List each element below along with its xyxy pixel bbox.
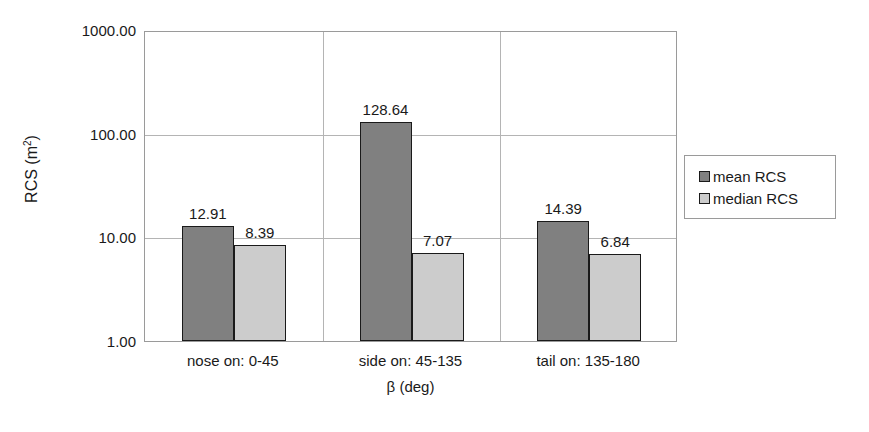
bar-mean-0 bbox=[182, 226, 234, 341]
gridline-vertical bbox=[500, 32, 501, 341]
x-axis-tick-label: tail on: 135-180 bbox=[499, 352, 677, 370]
legend-item[interactable]: median RCS bbox=[699, 187, 827, 209]
bar-value-label: 6.84 bbox=[581, 234, 649, 249]
bar-value-label: 14.39 bbox=[529, 201, 597, 216]
bar-value-label: 8.39 bbox=[226, 225, 294, 240]
plot-area: 12.918.39128.647.0714.396.84 bbox=[144, 31, 677, 342]
x-axis-tick-label: side on: 45-135 bbox=[322, 352, 500, 370]
bar-median-0 bbox=[234, 245, 286, 341]
bar-median-2 bbox=[589, 254, 641, 341]
bar-value-label: 7.07 bbox=[404, 233, 472, 248]
y-axis-title-close: ) bbox=[23, 135, 40, 140]
x-axis-title: β (deg) bbox=[144, 378, 677, 396]
rcs-bar-chart: RCS (m2) 1000.00100.0010.001.00 12.918.3… bbox=[0, 0, 869, 432]
chart-legend: mean RCSmedian RCS bbox=[684, 155, 836, 219]
y-axis-title-exponent: 2 bbox=[22, 140, 33, 146]
y-axis-tick-label: 1.00 bbox=[44, 334, 136, 349]
legend-item-label: median RCS bbox=[713, 191, 798, 206]
bar-median-1 bbox=[412, 253, 464, 341]
legend-swatch-icon bbox=[699, 171, 710, 182]
bar-value-label: 12.91 bbox=[174, 206, 242, 221]
legend-item-label: mean RCS bbox=[713, 169, 786, 184]
y-axis-tick-label: 1000.00 bbox=[44, 23, 136, 38]
x-axis-tick-label: nose on: 0-45 bbox=[144, 352, 322, 370]
legend-item[interactable]: mean RCS bbox=[699, 165, 827, 187]
bar-value-label: 128.64 bbox=[352, 102, 420, 117]
gridline-vertical bbox=[323, 32, 324, 341]
y-axis-tick-label: 10.00 bbox=[44, 230, 136, 245]
y-axis-title-text: RCS (m bbox=[23, 146, 40, 203]
y-axis-tick-label: 100.00 bbox=[44, 127, 136, 142]
bar-mean-1 bbox=[360, 122, 412, 341]
y-axis-title: RCS (m2) bbox=[17, 119, 39, 219]
legend-swatch-icon bbox=[699, 193, 710, 204]
y-axis-tick-labels: 1000.00100.0010.001.00 bbox=[40, 0, 136, 432]
